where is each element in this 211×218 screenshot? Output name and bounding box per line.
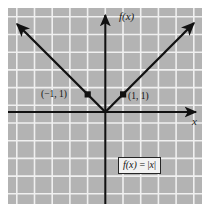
point-marker-right [120, 91, 126, 97]
equation-box: f(x) = |x| [118, 157, 161, 174]
y-axis-label: f(x) [119, 11, 134, 22]
point-label-left: (−1, 1) [41, 90, 67, 100]
point-label-right: (1, 1) [128, 92, 149, 102]
equation-argument: (x) [126, 159, 137, 170]
plot-area [8, 8, 202, 204]
equation-close-bar: | [154, 159, 156, 170]
x-axis-label: x [192, 116, 197, 127]
point-marker-left [85, 91, 91, 97]
equation-equals: = | [137, 159, 150, 170]
absolute-value-graph-figure: f(x) x (−1, 1) (1, 1) f(x) = |x| [0, 0, 211, 218]
graph-drawing [8, 8, 202, 204]
